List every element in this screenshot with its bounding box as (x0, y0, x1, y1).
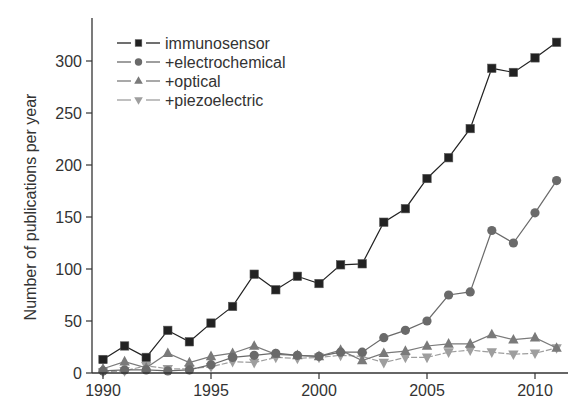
triangle-down-marker-icon (400, 354, 410, 364)
square-marker-icon (466, 124, 474, 132)
square-marker-icon (99, 355, 107, 363)
legend-label: +electrochemical (165, 54, 286, 71)
square-marker-icon (120, 342, 128, 350)
x-tick-label: 1995 (193, 382, 229, 399)
circle-marker-icon (314, 352, 323, 361)
legend-item: +optical (117, 73, 221, 90)
publications-line-chart: 050100150200250300 19901995200020052010 … (0, 0, 585, 415)
triangle-down-marker-icon (530, 349, 540, 359)
triangle-down-marker-icon (487, 348, 497, 358)
legend-item: +piezoelectric (117, 92, 263, 109)
square-marker-icon (358, 260, 366, 268)
circle-marker-icon (487, 226, 496, 235)
square-marker-icon (509, 68, 517, 76)
y-tick-label: 250 (55, 105, 82, 122)
series-electrochemical (98, 176, 561, 376)
y-tick-label: 300 (55, 53, 82, 70)
circle-marker-icon (206, 360, 215, 369)
y-tick-label: 150 (55, 209, 82, 226)
square-marker-icon (164, 326, 172, 334)
square-marker-icon (444, 154, 452, 162)
legend-item: +electrochemical (117, 54, 286, 71)
legend-label: immunosensor (165, 35, 271, 52)
y-tick-label: 0 (73, 365, 82, 382)
circle-marker-icon (552, 176, 561, 185)
x-ticks: 19901995200020052010 (85, 373, 553, 399)
square-marker-icon (401, 204, 409, 212)
circle-marker-icon (358, 348, 367, 357)
legend-label: +piezoelectric (165, 92, 263, 109)
triangle-up-marker-icon (379, 347, 389, 357)
triangle-up-marker-icon (119, 356, 129, 366)
circle-marker-icon (135, 58, 142, 65)
square-marker-icon (336, 261, 344, 269)
square-marker-icon (142, 353, 150, 361)
square-marker-icon (250, 270, 258, 278)
square-marker-icon (423, 174, 431, 182)
triangle-up-marker-icon (530, 332, 540, 342)
legend: immunosensor+electrochemical+optical+pie… (117, 35, 286, 109)
y-axis-title: Number of publications per year (22, 93, 39, 320)
triangle-down-marker-icon (249, 359, 259, 369)
x-tick-label: 2010 (517, 382, 553, 399)
circle-marker-icon (422, 316, 431, 325)
square-marker-icon (488, 64, 496, 72)
triangle-up-marker-icon (134, 76, 143, 84)
circle-marker-icon (444, 290, 453, 299)
triangle-down-marker-icon (379, 359, 389, 369)
triangle-down-marker-icon (508, 350, 518, 360)
triangle-up-marker-icon (163, 347, 173, 357)
circle-marker-icon (401, 326, 410, 335)
square-marker-icon (207, 319, 215, 327)
x-tick-label: 2000 (301, 382, 337, 399)
square-marker-icon (315, 279, 323, 287)
circle-marker-icon (228, 353, 237, 362)
axes: 050100150200250300 19901995200020052010 … (22, 18, 568, 399)
x-tick-label: 1990 (85, 382, 121, 399)
circle-marker-icon (379, 333, 388, 342)
square-marker-icon (531, 54, 539, 62)
triangle-down-marker-icon (134, 97, 143, 105)
triangle-up-marker-icon (249, 340, 259, 350)
series-line (103, 181, 557, 371)
square-marker-icon (135, 40, 142, 47)
square-marker-icon (185, 338, 193, 346)
square-marker-icon (272, 286, 280, 294)
triangle-down-marker-icon (422, 354, 432, 364)
square-marker-icon (552, 38, 560, 46)
circle-marker-icon (250, 351, 259, 360)
x-tick-label: 2005 (409, 382, 445, 399)
circle-marker-icon (293, 351, 302, 360)
triangle-up-marker-icon (487, 329, 497, 339)
y-tick-label: 200 (55, 157, 82, 174)
circle-marker-icon (163, 366, 172, 375)
circle-marker-icon (509, 238, 518, 247)
square-marker-icon (293, 272, 301, 280)
circle-marker-icon (466, 287, 475, 296)
legend-item: immunosensor (117, 35, 271, 52)
circle-marker-icon (530, 208, 539, 217)
y-ticks: 050100150200250300 (55, 53, 92, 382)
triangle-up-marker-icon (443, 338, 453, 348)
y-tick-label: 50 (64, 313, 82, 330)
square-marker-icon (228, 302, 236, 310)
y-tick-label: 100 (55, 261, 82, 278)
circle-marker-icon (271, 349, 280, 358)
triangle-up-marker-icon (422, 340, 432, 350)
triangle-down-marker-icon (465, 346, 475, 356)
circle-marker-icon (336, 348, 345, 357)
square-marker-icon (380, 218, 388, 226)
legend-label: +optical (165, 73, 221, 90)
